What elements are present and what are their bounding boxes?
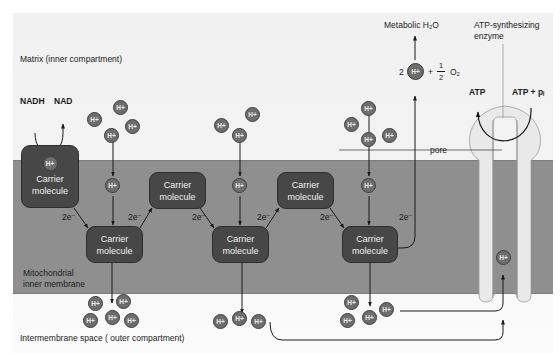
carrier-molecule-3: Carrier molecule [149, 172, 206, 209]
proton: H+ [125, 119, 140, 134]
proton: H+ [88, 296, 103, 311]
proton: H+ [251, 314, 266, 329]
proton: H+ [245, 107, 260, 122]
inner-membrane-label-1: Mitochondrial [23, 268, 74, 279]
proton: H+ [361, 178, 376, 193]
water-eq-frac-den: 2 [439, 72, 443, 83]
proton-water: H+ [407, 63, 424, 80]
carrier-label-1: Carrier [356, 233, 384, 245]
water-eq-o2: O₂ [450, 67, 460, 78]
intermembrane-label: Intermembrane space ( outer compartment) [20, 333, 184, 344]
proton: H+ [382, 128, 397, 143]
carrier-label-1: Carrier [36, 173, 64, 185]
proton: H+ [232, 128, 247, 143]
electron-label: 2e⁻ [257, 212, 271, 223]
atp-enzyme-label-1: ATP-synthesizing [474, 20, 540, 31]
carrier-molecule-5: Carrier molecule [277, 172, 334, 209]
proton: H+ [232, 311, 247, 326]
proton: H+ [213, 314, 228, 329]
carrier-molecule-2: Carrier molecule [86, 226, 143, 263]
nad-label: NAD [54, 96, 72, 107]
carrier-label-2: molecule [159, 191, 195, 203]
carrier-label-2: molecule [32, 185, 68, 197]
carrier-label-1: Carrier [227, 233, 255, 245]
proton: H+ [362, 310, 377, 325]
proton: H+ [361, 101, 376, 116]
water-eq-frac-num: 1 [439, 60, 443, 71]
carrier-molecule-4: Carrier molecule [212, 226, 269, 263]
etc-diagram: Matrix (inner compartment) NADH NAD Mito… [0, 0, 560, 353]
proton: H+ [116, 294, 131, 309]
proton: H+ [344, 117, 359, 132]
proton: H+ [214, 118, 229, 133]
electron-label: 2e⁻ [320, 212, 334, 223]
proton: H+ [379, 302, 394, 317]
atp-synthase [469, 106, 540, 302]
proton: H+ [340, 313, 355, 328]
carrier-molecule-nadh: H+ Carrier molecule [21, 145, 79, 208]
nadh-label: NADH [20, 96, 45, 107]
proton: H+ [104, 128, 119, 143]
pore-label: pore [430, 145, 447, 156]
proton: H+ [344, 295, 359, 310]
carrier-molecule-6: Carrier molecule [342, 226, 398, 263]
metabolic-water-label: Metabolic H₂O [384, 20, 439, 31]
carrier-label-1: Carrier [164, 179, 192, 191]
carrier-label-2: molecule [96, 245, 132, 257]
proton: H+ [232, 178, 247, 193]
water-eq-coefficient: 2 [399, 67, 404, 78]
water-eq-plus: + [428, 67, 433, 78]
proton: H+ [105, 178, 120, 193]
electron-label: 2e⁻ [399, 212, 413, 223]
adp-pi-label: ATP + pᵢ [512, 87, 544, 98]
atp-enzyme-label-2: enzyme [474, 31, 504, 42]
proton: H+ [105, 310, 120, 325]
electron-label: 2e⁻ [62, 212, 76, 223]
atp-label: ATP [469, 87, 485, 98]
inner-membrane-label-2: inner membrane [23, 279, 85, 290]
proton-in-pore: H+ [496, 250, 511, 265]
proton: H+ [83, 313, 98, 328]
carrier-label-2: molecule [222, 245, 258, 257]
electron-label: 2e⁻ [192, 212, 206, 223]
matrix-label: Matrix (inner compartment) [20, 54, 122, 65]
proton: H+ [361, 132, 376, 147]
carrier-label-1: Carrier [292, 179, 320, 191]
carrier-label-1: Carrier [101, 233, 129, 245]
proton: H+ [113, 100, 128, 115]
proton-in-carrier: H+ [43, 156, 58, 171]
proton: H+ [124, 313, 139, 328]
carrier-label-2: molecule [352, 245, 388, 257]
carrier-label-2: molecule [287, 191, 323, 203]
proton: H+ [87, 112, 102, 127]
electron-label: 2e⁻ [128, 212, 142, 223]
